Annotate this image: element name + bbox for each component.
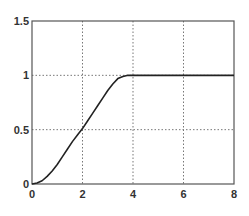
x-axis: 02468 bbox=[29, 188, 237, 200]
x-tick-label: 0 bbox=[29, 188, 35, 200]
x-tick-label: 4 bbox=[130, 188, 137, 200]
x-tick-label: 8 bbox=[231, 188, 237, 200]
y-tick-label: 1.5 bbox=[14, 15, 29, 27]
x-tick-label: 2 bbox=[79, 188, 85, 200]
x-tick-label: 6 bbox=[180, 188, 186, 200]
grid bbox=[32, 21, 234, 184]
y-tick-label: 1 bbox=[23, 69, 29, 81]
y-tick-label: 0 bbox=[23, 178, 29, 190]
y-tick-label: 0.5 bbox=[14, 124, 29, 136]
chart: 02468 00.511.5 bbox=[0, 0, 249, 216]
y-axis: 00.511.5 bbox=[14, 15, 29, 190]
